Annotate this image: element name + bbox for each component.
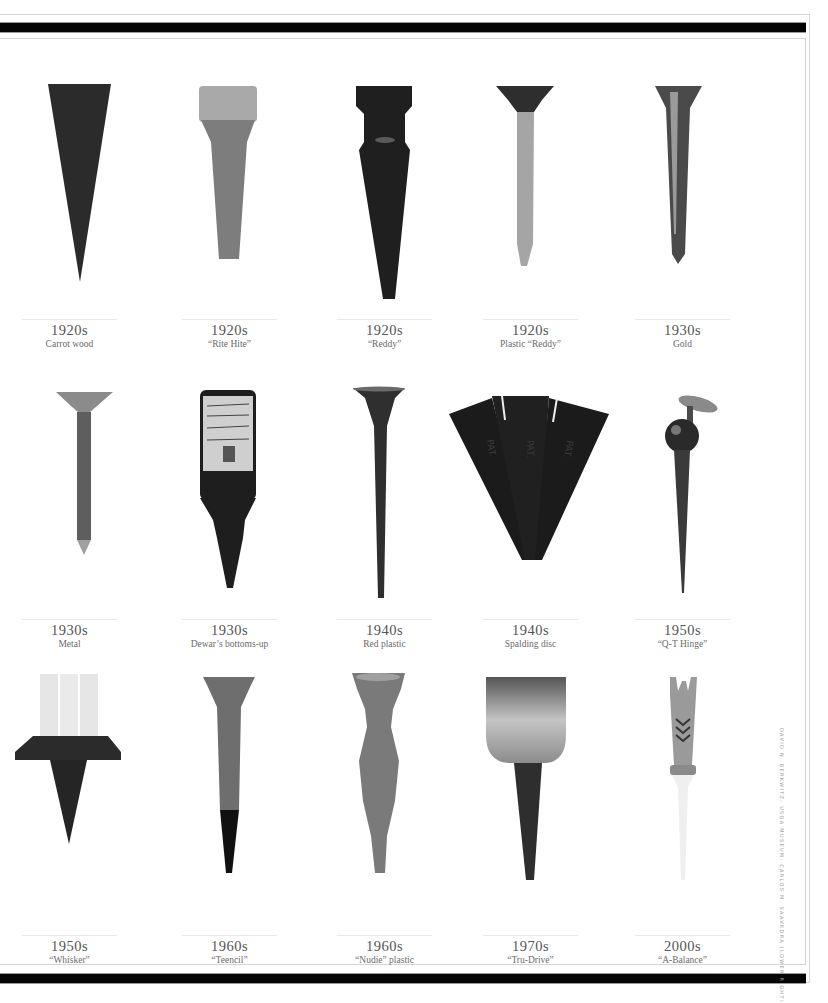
tee-caption: 1940s Spalding disc bbox=[483, 619, 578, 650]
tee-label: “Reddy” bbox=[337, 338, 432, 350]
reddy-tee-icon bbox=[307, 84, 457, 304]
tee-label: Metal bbox=[22, 638, 117, 650]
red-plastic-tee-icon bbox=[307, 386, 457, 601]
tee-decade: 1950s bbox=[635, 622, 730, 638]
tee-caption: 1960s “Nudie” plastic bbox=[337, 935, 432, 966]
photo-credit: DAVID N. BERKWITZ; USGA MUSEUM: CARLOS M… bbox=[776, 728, 786, 958]
tee-decade: 1920s bbox=[182, 322, 277, 338]
teencil-tee-icon bbox=[153, 675, 303, 880]
tru-drive-tee-icon bbox=[462, 675, 612, 885]
tee-label: Spalding disc bbox=[483, 638, 578, 650]
tee-decade: 1950s bbox=[22, 938, 117, 954]
tee-label: “Q-T Hinge” bbox=[635, 638, 730, 650]
rite-hite-tee-icon bbox=[153, 84, 303, 264]
tee-caption: 1920s “Reddy” bbox=[337, 319, 432, 350]
tee-decade: 2000s bbox=[635, 938, 730, 954]
spalding-disc-tee-icon: PAT. PAT. PAT. bbox=[447, 390, 617, 565]
tee-caption: 1920s Carrot wood bbox=[22, 319, 117, 350]
tee-label: Carrot wood bbox=[22, 338, 117, 350]
carrot-wood-tee-icon bbox=[3, 82, 153, 282]
svg-text:PAT.: PAT. bbox=[525, 440, 535, 458]
top-rule bbox=[0, 22, 806, 33]
tee-label: Red plastic bbox=[337, 638, 432, 650]
tee-label: “Whisker” bbox=[22, 954, 117, 966]
tee-decade: 1930s bbox=[635, 322, 730, 338]
tee-label: “Nudie” plastic bbox=[337, 954, 432, 966]
nudie-tee-icon bbox=[307, 671, 457, 881]
tee-decade: 1960s bbox=[182, 938, 277, 954]
tee-decade: 1930s bbox=[182, 622, 277, 638]
tee-decade: 1920s bbox=[483, 322, 578, 338]
tee-caption: 1970s “Tru-Drive” bbox=[483, 935, 578, 966]
tee-caption: 1940s Red plastic bbox=[337, 619, 432, 650]
tee-label: “Tru-Drive” bbox=[483, 954, 578, 966]
whisker-tee-icon bbox=[3, 672, 153, 852]
tee-label: Plastic “Reddy” bbox=[483, 338, 578, 350]
dewars-bottle-tee-icon bbox=[153, 388, 303, 593]
tee-caption: 1960s “Teencil” bbox=[182, 935, 277, 966]
gold-tee-icon bbox=[612, 84, 762, 264]
tee-decade: 1970s bbox=[483, 938, 578, 954]
plastic-reddy-tee-icon bbox=[462, 84, 612, 274]
tee-label: Gold bbox=[635, 338, 730, 350]
tee-decade: 1930s bbox=[22, 622, 117, 638]
tee-decade: 1960s bbox=[337, 938, 432, 954]
tee-caption: 1920s “Rite Hite” bbox=[182, 319, 277, 350]
tee-decade: 1920s bbox=[337, 322, 432, 338]
tee-decade: 1940s bbox=[337, 622, 432, 638]
bottom-rule bbox=[0, 973, 806, 984]
photo-credit-text: DAVID N. BERKWITZ; USGA MUSEUM: CARLOS M… bbox=[779, 728, 785, 1003]
a-balance-tee-icon bbox=[612, 675, 762, 885]
tee-label: “Rite Hite” bbox=[182, 338, 277, 350]
tee-caption: 1950s “Q-T Hinge” bbox=[635, 619, 730, 650]
metal-tee-icon bbox=[3, 390, 153, 560]
tee-decade: 1940s bbox=[483, 622, 578, 638]
tee-caption: 1930s Dewar’s bottoms-up bbox=[182, 619, 277, 650]
tee-caption: 2000s “A-Balance” bbox=[635, 935, 730, 966]
tee-caption: 1930s Metal bbox=[22, 619, 117, 650]
tee-label: “Teencil” bbox=[182, 954, 277, 966]
qt-hinge-tee-icon bbox=[612, 388, 762, 598]
tee-caption: 1950s “Whisker” bbox=[22, 935, 117, 966]
tee-label: “A-Balance” bbox=[635, 954, 730, 966]
tee-caption: 1930s Gold bbox=[635, 319, 730, 350]
tee-decade: 1920s bbox=[22, 322, 117, 338]
tee-caption: 1920s Plastic “Reddy” bbox=[483, 319, 578, 350]
tee-label: Dewar’s bottoms-up bbox=[182, 638, 277, 650]
